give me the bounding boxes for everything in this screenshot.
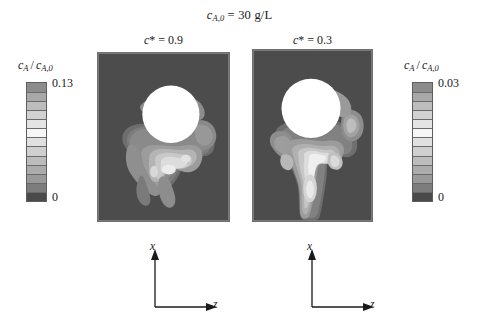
panel-title-left-star: * xyxy=(149,33,155,47)
cbl-den-sub: A,0 xyxy=(41,63,53,73)
axis-right-x-label: x xyxy=(307,240,312,252)
panel-title-left: c*= 0.9 xyxy=(97,33,230,48)
contour-panel-left xyxy=(97,52,230,222)
axis-left-z-label: z xyxy=(213,298,217,310)
colorbar-left-min-label: 0 xyxy=(52,190,58,205)
cbr-den-sub: A,0 xyxy=(427,63,439,73)
colorbar-band xyxy=(27,183,46,192)
axis-indicator-right: x z xyxy=(296,243,388,315)
colorbar-band xyxy=(27,156,46,165)
sphere-left-main xyxy=(142,86,199,143)
colorbar-band xyxy=(413,128,432,137)
colorbar-band xyxy=(413,174,432,183)
panel-title-right-rest: = 0.3 xyxy=(307,33,332,47)
panel-title-left-rest: = 0.9 xyxy=(158,33,183,47)
colorbar-band xyxy=(413,183,432,192)
panel-title-right-star: * xyxy=(298,33,304,47)
colorbar-right-min-label: 0 xyxy=(438,190,444,205)
colorbar-band xyxy=(27,165,46,174)
colorbar-band xyxy=(27,137,46,146)
contour-panel-right xyxy=(252,49,373,222)
colorbar-band xyxy=(27,174,46,183)
colorbar-band xyxy=(27,83,46,91)
contour-hotspot-r2 xyxy=(306,180,314,198)
colorbar-band xyxy=(413,92,432,101)
colorbar-band xyxy=(27,192,46,201)
contour-hotspot-l1 xyxy=(162,165,176,175)
colorbar-left-group: cA/cA,0 0.13 0 xyxy=(18,58,84,204)
colorbar-band xyxy=(413,165,432,174)
colorbar-band xyxy=(413,83,432,91)
colorbar-band xyxy=(27,110,46,119)
colorbar-band xyxy=(413,110,432,119)
colorbar-band xyxy=(413,101,432,110)
colorbar-band xyxy=(413,137,432,146)
colorbar-band xyxy=(413,119,432,128)
colorbar-band xyxy=(413,146,432,155)
colorbar-left-max-label: 0.13 xyxy=(52,76,73,91)
figure-title: cA,0= 30 g/L xyxy=(0,8,479,23)
contour-hotspot-l2 xyxy=(181,155,191,163)
colorbar-band xyxy=(27,128,46,137)
colorbar-right-scale xyxy=(412,82,433,202)
cbl-slash: / xyxy=(31,58,34,72)
contour-plot-right xyxy=(253,50,372,221)
colorbar-band xyxy=(27,119,46,128)
axis-indicator-left: x z xyxy=(139,243,231,315)
figure-title-subscript: A,0 xyxy=(212,13,224,23)
colorbar-right-max-label: 0.03 xyxy=(438,76,459,91)
colorbar-right-caption: cA/cA,0 xyxy=(404,58,470,73)
colorbar-band xyxy=(27,92,46,101)
contour-plot-left xyxy=(98,53,229,221)
contour-hotspot-l3 xyxy=(150,166,158,178)
axis-right-z-label: z xyxy=(370,298,374,310)
colorbar-band xyxy=(27,101,46,110)
colorbar-left-caption: cA/cA,0 xyxy=(18,58,84,73)
cbr-num-sub: A xyxy=(409,63,414,73)
colorbar-band xyxy=(27,146,46,155)
colorbar-right-group: cA/cA,0 0.03 0 xyxy=(404,58,470,204)
sphere-right-main xyxy=(282,79,341,138)
colorbar-band xyxy=(413,192,432,201)
axis-left-x-label: x xyxy=(150,240,155,252)
figure-title-rest: = 30 g/L xyxy=(228,8,273,22)
cbl-num-sub: A xyxy=(23,63,28,73)
figure-root: cA,0= 30 g/L c*= 0.9 c*= 0.3 xyxy=(0,0,479,331)
panel-title-right: c*= 0.3 xyxy=(252,33,373,48)
colorbar-left-scale xyxy=(26,82,47,202)
colorbar-band xyxy=(413,156,432,165)
cbr-slash: / xyxy=(417,58,420,72)
